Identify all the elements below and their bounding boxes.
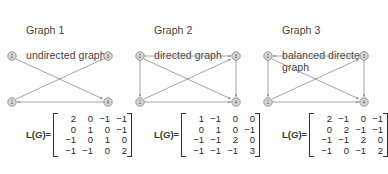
graph-panel-2: Graph 2 directed graph bbox=[128, 0, 258, 174]
matrix-cell: −1 bbox=[221, 146, 238, 157]
matrix-cell: 3 bbox=[238, 146, 255, 157]
graph-3-title: Graph 3 bbox=[282, 24, 388, 37]
graph-3-matrix-bracket: 2 −1 0 −1 0 2 −1 −1 −1 −1 2 bbox=[309, 113, 388, 157]
matrix-cell: 0 bbox=[76, 114, 93, 125]
graph-1-matrix: 2 0 −1 −1 0 1 0 −1 −1 0 1 bbox=[58, 114, 127, 156]
node-4-label: 4 bbox=[107, 99, 110, 105]
node-1-label: 1 bbox=[139, 99, 142, 105]
matrix-row: −1 −1 0 2 bbox=[58, 146, 127, 157]
graph-laplacian-figure: Graph 1 undirected graph 2 bbox=[0, 0, 388, 174]
matrix-cell: 1 bbox=[186, 114, 204, 125]
matrix-cell: −1 bbox=[186, 146, 204, 157]
matrix-cell: 2 bbox=[314, 114, 332, 125]
graph-2-title: Graph 2 bbox=[154, 24, 222, 37]
matrix-cell: −1 bbox=[76, 146, 93, 157]
graph-panel-1: Graph 1 undirected graph 2 bbox=[0, 0, 130, 174]
graph-1-edges bbox=[16, 59, 104, 102]
graph-3-matrix-label: L(G)= bbox=[282, 130, 307, 140]
graph-1-diagram: 2 3 1 4 bbox=[0, 48, 130, 110]
graph-1-matrix-bracket: 2 0 −1 −1 0 1 0 −1 −1 0 1 bbox=[53, 113, 132, 157]
matrix-cell: −1 bbox=[204, 146, 221, 157]
graph-1-title: Graph 1 bbox=[26, 24, 106, 37]
node-1-label: 1 bbox=[11, 99, 14, 105]
matrix-cell: −1 bbox=[110, 114, 127, 125]
node-3-label: 3 bbox=[363, 53, 366, 59]
matrix-cell: −1 bbox=[332, 114, 349, 125]
matrix-cell: −1 bbox=[366, 114, 383, 125]
matrix-row: 2 −1 0 −1 bbox=[314, 114, 383, 125]
node-3-label: 3 bbox=[235, 53, 238, 59]
graph-2-diagram: 2 3 1 4 bbox=[128, 48, 258, 110]
matrix-cell: 0 bbox=[238, 114, 255, 125]
matrix-row: 2 0 −1 −1 bbox=[58, 114, 127, 125]
graph-3-matrix: 2 −1 0 −1 0 2 −1 −1 −1 −1 2 bbox=[314, 114, 383, 156]
node-3-label: 3 bbox=[107, 53, 110, 59]
graph-1-matrix-label: L(G)= bbox=[26, 130, 51, 140]
matrix-cell: −1 bbox=[204, 114, 221, 125]
graph-3-diagram: 2 3 1 4 bbox=[256, 48, 386, 110]
graph-2-matrix-label: L(G)= bbox=[154, 130, 179, 140]
node-4-label: 4 bbox=[235, 99, 238, 105]
matrix-cell: 0 bbox=[332, 146, 349, 157]
matrix-cell: −1 bbox=[314, 146, 332, 157]
graph-2-edges bbox=[140, 56, 236, 102]
matrix-cell: 0 bbox=[221, 114, 238, 125]
matrix-cell: 2 bbox=[366, 146, 383, 157]
matrix-cell: −1 bbox=[58, 146, 76, 157]
node-2-label: 2 bbox=[267, 53, 270, 59]
matrix-cell: 0 bbox=[349, 114, 366, 125]
node-2-label: 2 bbox=[139, 53, 142, 59]
matrix-row: 1 −1 0 0 bbox=[186, 114, 255, 125]
matrix-cell: 2 bbox=[110, 146, 127, 157]
matrix-row: −1 −1 −1 3 bbox=[186, 146, 255, 157]
graph-panel-3: Graph 3 balanced directed graph bbox=[256, 0, 388, 174]
node-4-label: 4 bbox=[363, 99, 366, 105]
graph-2-matrix: 1 −1 0 0 0 1 0 −1 −1 −1 2 bbox=[186, 114, 255, 156]
graph-2-matrix-bracket: 1 −1 0 0 0 1 0 −1 −1 −1 2 bbox=[181, 113, 260, 157]
matrix-cell: 0 bbox=[93, 146, 110, 157]
matrix-row: −1 0 −1 2 bbox=[314, 146, 383, 157]
graph-3-matrix-row: L(G)= 2 −1 0 −1 0 2 −1 −1 bbox=[256, 113, 388, 157]
node-2-label: 2 bbox=[11, 53, 14, 59]
graph-3-edges bbox=[268, 56, 364, 102]
matrix-cell: −1 bbox=[93, 114, 110, 125]
node-1-label: 1 bbox=[267, 99, 270, 105]
matrix-cell: 2 bbox=[58, 114, 76, 125]
matrix-cell: −1 bbox=[349, 146, 366, 157]
